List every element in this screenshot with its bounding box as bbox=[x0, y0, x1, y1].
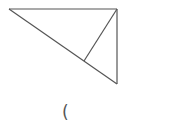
hypotenuse bbox=[9, 9, 117, 84]
altitude bbox=[84, 9, 117, 61]
caption-parenthesis: ( bbox=[62, 104, 69, 121]
triangle-diagram bbox=[0, 0, 196, 130]
